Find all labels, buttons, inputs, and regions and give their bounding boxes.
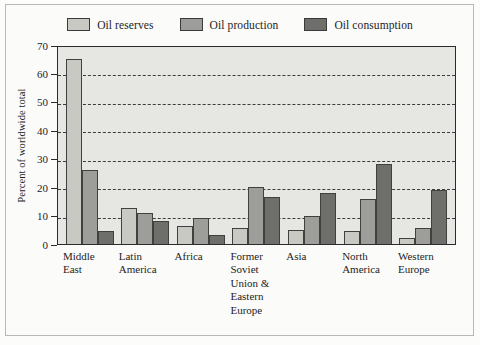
x-axis-label: MiddleEast	[63, 250, 115, 317]
x-axis-label-line: Africa	[175, 250, 227, 263]
bar	[177, 226, 193, 244]
x-axis-label-line: Western	[398, 250, 450, 263]
legend-item-oil-consumption: Oil consumption	[304, 18, 413, 31]
bar	[399, 238, 415, 244]
legend-label-oil-consumption: Oil consumption	[334, 19, 413, 31]
bar	[304, 216, 320, 244]
bar-group	[66, 47, 114, 244]
bar	[288, 230, 304, 244]
y-tick-label: 30	[37, 154, 48, 165]
figure: Oil reserves Oil production Oil consumpt…	[0, 0, 480, 345]
bars-layer	[58, 47, 455, 244]
legend-swatch-oil-consumption	[304, 18, 327, 31]
legend-item-oil-reserves: Oil reserves	[67, 18, 153, 31]
y-tick-label: 60	[37, 68, 48, 79]
x-axis-labels: MiddleEastLatinAmericaAfricaFormerSoviet…	[57, 250, 456, 317]
x-axis-label: WesternEurope	[398, 250, 450, 317]
x-axis-label-line: Asia	[286, 250, 338, 263]
x-axis-label-line: Eastern	[230, 290, 282, 303]
x-axis-label-line: North	[342, 250, 394, 263]
y-axis: 706050403020100	[0, 46, 57, 245]
bar	[320, 193, 336, 244]
x-axis-label: Africa	[175, 250, 227, 317]
x-axis-label: LatinAmerica	[119, 250, 171, 317]
bar-group	[232, 47, 280, 244]
bar	[232, 228, 248, 244]
bar-group	[177, 47, 225, 244]
bar-group	[344, 47, 392, 244]
x-axis-label-line: America	[119, 263, 171, 276]
legend-label-oil-reserves: Oil reserves	[97, 19, 153, 31]
plot-wrapper	[57, 46, 456, 245]
legend-swatch-oil-reserves	[67, 18, 90, 31]
x-axis-label: Asia	[286, 250, 338, 317]
bar-group	[121, 47, 169, 244]
x-axis-label-line: Latin	[119, 250, 171, 263]
bar	[209, 235, 225, 244]
x-axis-label-line: Europe	[398, 263, 450, 276]
y-tick-label: 0	[43, 239, 49, 250]
bar	[264, 197, 280, 244]
x-axis-label-line: Soviet	[230, 263, 282, 276]
plot-area	[57, 46, 456, 245]
chart-legend: Oil reserves Oil production Oil consumpt…	[0, 18, 480, 31]
bar	[431, 190, 447, 244]
x-axis-label-line: Europe	[230, 304, 282, 317]
bar-group	[399, 47, 447, 244]
y-tick-label: 10	[37, 211, 48, 222]
y-tick-label: 50	[37, 97, 48, 108]
bar	[193, 218, 209, 244]
legend-swatch-oil-production	[180, 18, 203, 31]
bar	[153, 221, 169, 244]
y-tick-label: 70	[37, 40, 48, 51]
bar	[137, 213, 153, 244]
bar	[98, 231, 114, 244]
bar	[82, 170, 98, 244]
x-axis-label-line: Middle	[63, 250, 115, 263]
bar	[344, 231, 360, 244]
bar	[376, 164, 392, 244]
x-axis-label-line: Union &	[230, 277, 282, 290]
x-axis-label-line: America	[342, 263, 394, 276]
bar	[121, 208, 137, 244]
bar	[66, 59, 82, 244]
x-axis-label: FormerSovietUnion &EasternEurope	[230, 250, 282, 317]
y-tick-label: 20	[37, 182, 48, 193]
bar	[415, 228, 431, 244]
x-axis-label: NorthAmerica	[342, 250, 394, 317]
legend-item-oil-production: Oil production	[180, 18, 279, 31]
x-axis-label-line: East	[63, 263, 115, 276]
bar	[360, 199, 376, 244]
x-axis-label-line: Former	[230, 250, 282, 263]
bar-group	[288, 47, 336, 244]
bar	[248, 187, 264, 244]
y-tick-label: 40	[37, 125, 48, 136]
legend-label-oil-production: Oil production	[210, 19, 279, 31]
